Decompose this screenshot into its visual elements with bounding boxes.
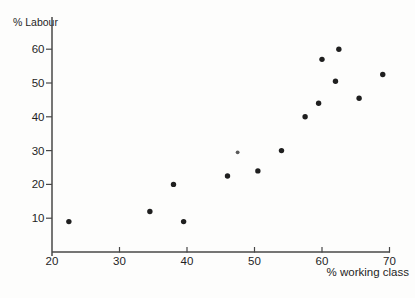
data-point [336, 47, 341, 52]
x-tick-label: 20 [46, 255, 59, 267]
data-point [66, 219, 71, 224]
data-point [236, 150, 240, 154]
data-point [380, 72, 385, 77]
data-point [171, 182, 176, 187]
y-tick-label: 30 [32, 145, 45, 157]
x-tick-label: 50 [248, 255, 261, 267]
data-point [225, 173, 230, 178]
data-point [302, 114, 307, 119]
y-tick-label: 10 [32, 212, 45, 224]
data-point [181, 219, 186, 224]
scatter-figure: % Labour 203040506070102030405060 % work… [0, 0, 415, 298]
y-tick-label: 50 [32, 77, 45, 89]
y-tick-label: 40 [32, 111, 45, 123]
data-point [279, 148, 284, 153]
data-point [147, 209, 152, 214]
y-tick-label: 60 [32, 43, 45, 55]
data-point [319, 57, 324, 62]
data-point [316, 101, 321, 106]
data-point [255, 168, 260, 173]
scatter-plot: 203040506070102030405060 [0, 0, 415, 298]
y-tick-label: 20 [32, 178, 45, 190]
data-point [356, 96, 361, 101]
x-axis-label: % working class [327, 266, 409, 278]
x-tick-label: 30 [113, 255, 126, 267]
data-point [333, 79, 338, 84]
x-tick-label: 40 [181, 255, 194, 267]
